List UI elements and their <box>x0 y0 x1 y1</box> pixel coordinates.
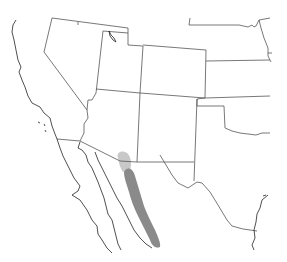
map-canvas <box>0 0 287 262</box>
range-layer <box>118 152 161 248</box>
range-primary <box>124 169 160 248</box>
range-map <box>0 0 287 262</box>
